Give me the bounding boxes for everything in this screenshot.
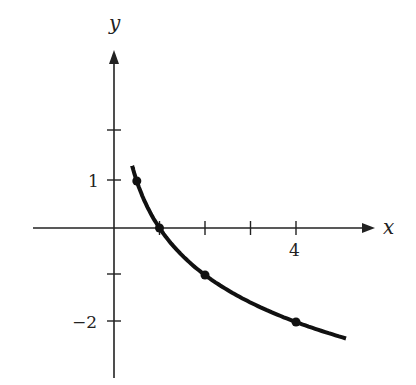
- data-point: [132, 177, 141, 186]
- y-axis-arrow-icon: [109, 50, 119, 64]
- x-axis-label: x: [383, 215, 394, 239]
- y-axis-label: y: [108, 11, 121, 35]
- data-point: [155, 224, 164, 233]
- log-graph: y x 4 1 −2: [0, 0, 416, 385]
- data-point: [201, 271, 210, 280]
- log-curve: [132, 166, 346, 339]
- x-axis-arrow-icon: [362, 223, 375, 233]
- y-tick-label-neg2: −2: [72, 312, 97, 332]
- y-tick-label-1: 1: [88, 171, 99, 191]
- data-point: [292, 318, 301, 327]
- data-points: [132, 177, 300, 327]
- x-tick-label-4: 4: [289, 240, 300, 260]
